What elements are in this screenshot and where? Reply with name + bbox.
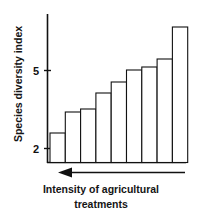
bar-8 <box>157 59 172 163</box>
x-axis-caption: Intensity of agricultural treatments <box>8 182 194 212</box>
x-axis-caption-line-2: treatments <box>8 197 194 212</box>
bar-1 <box>50 133 65 163</box>
bar-9 <box>172 27 187 163</box>
bar-series <box>50 27 188 163</box>
bar-4 <box>96 93 111 163</box>
intensity-direction-arrow <box>58 168 185 178</box>
chart-figure: Species diversity index 5 2 <box>0 0 197 216</box>
y-tick-label-2: 2 <box>33 143 39 155</box>
bar-6 <box>127 70 142 163</box>
y-tick-label-5: 5 <box>33 65 39 77</box>
arrow-head-left <box>58 168 72 178</box>
x-axis-caption-line-1: Intensity of agricultural <box>43 183 159 195</box>
bar-3 <box>81 109 96 163</box>
bar-2 <box>65 112 80 163</box>
bar-5 <box>111 82 126 163</box>
bar-7 <box>142 67 157 163</box>
